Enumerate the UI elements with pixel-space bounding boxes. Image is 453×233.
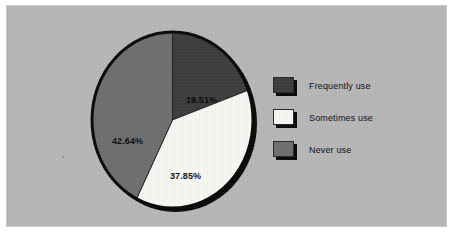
- pie-slices: [91, 31, 254, 209]
- legend-swatch-frequently-use: [273, 77, 297, 96]
- pie-chart: 19.51% 37.85% 42.64%: [91, 31, 257, 213]
- legend-item-frequently-use: Frequently use: [273, 70, 423, 102]
- slice-label-never-use: 42.64%: [112, 136, 143, 146]
- chart-panel: 19.51% 37.85% 42.64% Frequently use Some…: [6, 5, 447, 227]
- legend-swatch-sometimes-use: [273, 109, 297, 128]
- slice-label-frequently-use: 19.51%: [186, 95, 217, 105]
- chart-legend: Frequently use Sometimes use Never use: [273, 70, 423, 166]
- legend-swatch-fill: [273, 109, 294, 125]
- legend-label-sometimes-use: Sometimes use: [309, 113, 373, 123]
- legend-label-never-use: Never use: [309, 145, 351, 155]
- legend-swatch-fill: [273, 77, 294, 93]
- pie-svg: [91, 31, 254, 209]
- slice-label-sometimes-use: 37.85%: [170, 171, 201, 181]
- pie-chart-figure: 19.51% 37.85% 42.64% Frequently use Some…: [0, 0, 453, 233]
- legend-label-frequently-use: Frequently use: [309, 81, 371, 91]
- legend-item-sometimes-use: Sometimes use: [273, 102, 423, 134]
- legend-swatch-never-use: [273, 141, 297, 160]
- panel-artifact-speck: [62, 156, 64, 158]
- legend-swatch-fill: [273, 141, 294, 157]
- legend-item-never-use: Never use: [273, 134, 423, 166]
